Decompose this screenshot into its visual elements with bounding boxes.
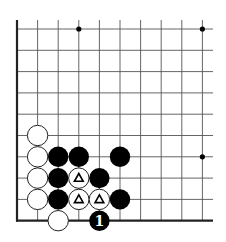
white-stone — [27, 125, 47, 145]
black-stone — [110, 189, 130, 209]
white-stone — [69, 189, 89, 209]
white-stone — [69, 168, 89, 188]
move-number-label: 1 — [95, 213, 105, 229]
black-stone — [110, 147, 130, 167]
black-stone — [48, 189, 68, 209]
white-stone — [48, 211, 68, 231]
black-stone — [48, 147, 68, 167]
white-stone — [27, 168, 47, 188]
white-stone — [27, 189, 47, 209]
star-point-icon — [200, 26, 205, 31]
white-stone — [89, 189, 109, 209]
star-point-icon — [200, 154, 205, 159]
star-point-icon — [76, 26, 81, 31]
black-stone: 1 — [89, 211, 109, 231]
go-board: 1 — [0, 0, 226, 242]
black-stone — [89, 168, 109, 188]
black-stone — [48, 168, 68, 188]
white-stone — [27, 147, 47, 167]
black-stone — [69, 147, 89, 167]
